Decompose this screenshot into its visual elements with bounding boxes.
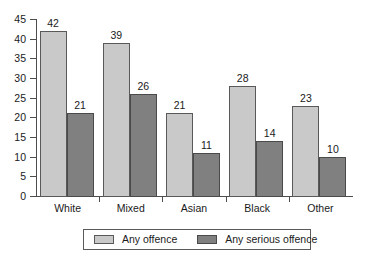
bar-value-label: 28 bbox=[223, 73, 262, 84]
bar-value-label: 39 bbox=[97, 30, 136, 41]
y-axis-tick-label: 10 bbox=[0, 152, 26, 163]
x-axis-label-black: Black bbox=[226, 203, 289, 214]
bar-other-series2 bbox=[319, 157, 346, 197]
legend-label-any-serious-offence: Any serious offence bbox=[225, 234, 317, 245]
y-axis-tick-label: 25 bbox=[0, 93, 26, 104]
bar-white-series1 bbox=[40, 31, 67, 197]
y-axis-tick-label: 5 bbox=[0, 171, 26, 182]
x-axis-tick bbox=[99, 197, 100, 202]
bar-black-series1 bbox=[229, 86, 256, 197]
bar-mixed-series1 bbox=[103, 43, 130, 197]
y-axis-tick bbox=[30, 196, 36, 197]
y-axis-tick-label: 45 bbox=[0, 14, 26, 25]
legend-entry-any-serious-offence: Any serious offence bbox=[197, 230, 317, 249]
bar-white-series2 bbox=[67, 113, 94, 197]
bar-value-label: 42 bbox=[34, 18, 73, 29]
light-gray-swatch bbox=[94, 235, 114, 244]
y-axis-tick bbox=[30, 98, 36, 99]
y-axis-tick-label: 15 bbox=[0, 132, 26, 143]
bar-mixed-series2 bbox=[130, 94, 157, 197]
x-axis-tick bbox=[289, 197, 290, 202]
x-axis-tick bbox=[226, 197, 227, 202]
bar-asian-series1 bbox=[166, 113, 193, 197]
y-axis-tick bbox=[30, 39, 36, 40]
bar-value-label: 26 bbox=[124, 81, 163, 92]
x-axis-label-asian: Asian bbox=[162, 203, 225, 214]
bar-asian-series2 bbox=[193, 153, 220, 197]
y-axis-tick-label: 20 bbox=[0, 112, 26, 123]
bar-value-label: 21 bbox=[160, 100, 199, 111]
chart-page: 051015202530354045 42213926211128142310 … bbox=[0, 0, 367, 260]
dark-gray-swatch bbox=[197, 235, 217, 244]
bar-value-label: 23 bbox=[286, 93, 325, 104]
bar-value-label: 11 bbox=[187, 140, 226, 151]
y-axis-tick bbox=[30, 157, 36, 158]
y-axis-tick bbox=[30, 137, 36, 138]
bar-black-series2 bbox=[256, 141, 283, 197]
y-axis-line bbox=[36, 19, 37, 197]
y-axis-tick bbox=[30, 176, 36, 177]
bar-value-label: 14 bbox=[250, 128, 289, 139]
y-axis-tick bbox=[30, 58, 36, 59]
chart-legend: Any offence Any serious offence bbox=[83, 229, 311, 250]
bar-value-label: 10 bbox=[313, 144, 352, 155]
x-axis-label-white: White bbox=[36, 203, 99, 214]
bar-value-label: 21 bbox=[61, 100, 100, 111]
y-axis-tick-label: 30 bbox=[0, 73, 26, 84]
legend-label-any-offence: Any offence bbox=[122, 234, 177, 245]
y-axis-tick-label: 40 bbox=[0, 34, 26, 45]
x-axis-label-mixed: Mixed bbox=[99, 203, 162, 214]
y-axis-tick-label: 0 bbox=[0, 191, 26, 202]
x-axis-tick bbox=[162, 197, 163, 202]
x-axis-label-other: Other bbox=[289, 203, 352, 214]
y-axis-tick bbox=[30, 78, 36, 79]
legend-entry-any-offence: Any offence bbox=[94, 230, 177, 249]
y-axis-tick-label: 35 bbox=[0, 53, 26, 64]
y-axis-tick bbox=[30, 117, 36, 118]
